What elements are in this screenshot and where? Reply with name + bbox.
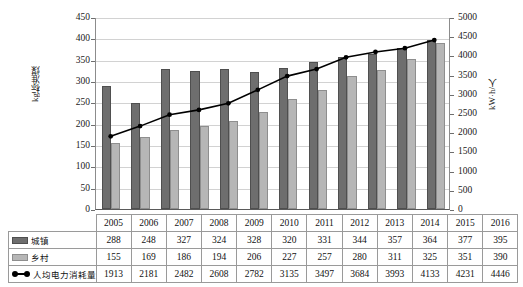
y-axis-primary-tick-label: 400: [56, 34, 90, 44]
legend-swatch-urban-icon: [12, 237, 28, 244]
legend-cell: 乡村: [9, 249, 97, 266]
chart-plot-region: kg标准煤 kW·h/人 050100150200250300350400450…: [0, 0, 523, 212]
table-row: 乡村155169186194206227257280311325351390: [9, 249, 518, 266]
y-axis-primary-tick-label: 450: [56, 13, 90, 23]
table-col-header-year: 2014: [412, 215, 447, 232]
table-col-header-year: 2007: [166, 215, 201, 232]
table-cell-value: 4446: [483, 266, 518, 283]
legend-cell: 城镇: [9, 232, 97, 249]
y-axis-primary-tick-label: 250: [56, 98, 90, 108]
table-cell-value: 2482: [166, 266, 201, 283]
y-axis-primary-tick-label: 350: [56, 56, 90, 66]
line-marker: 人均电力消耗量 2007: 2482: [167, 112, 172, 117]
data-table: 2005200620072008200920102011201220132014…: [8, 214, 518, 283]
line-marker: 人均电力消耗量 2013: 3993: [344, 55, 349, 60]
table-cell-value: 351: [448, 249, 483, 266]
legend-label: 城镇: [31, 236, 49, 246]
y-axis-secondary-tick-label: 1500: [458, 147, 498, 157]
table-cell-value: 288: [96, 232, 131, 249]
table-cell-value: 3684: [342, 266, 377, 283]
table-cell-value: 2782: [237, 266, 272, 283]
table-col-header-year: 2016: [483, 215, 518, 232]
table-col-header-year: 2011: [307, 215, 342, 232]
y-axis-primary-tick-label: 100: [56, 162, 90, 172]
table-cell-value: 364: [412, 232, 447, 249]
table-row: 人均电力消耗量191321812482260827823135349736843…: [9, 266, 518, 283]
y-axis-primary-tick-label: 300: [56, 77, 90, 87]
y-axis-primary-tick-label: 50: [56, 184, 90, 194]
plot-area: 人均电力消耗量 2005: 1913人均电力消耗量 2006: 2181人均电力…: [95, 18, 450, 210]
line-marker: 人均电力消耗量 2016: 4446: [432, 38, 437, 43]
table-col-header-year: 2008: [201, 215, 236, 232]
table-cell-value: 344: [342, 232, 377, 249]
table-cell-value: 390: [483, 249, 518, 266]
y-axis-secondary-tick-label: 1000: [458, 167, 498, 177]
legend-line-marker-icon: [12, 270, 30, 278]
y-axis-secondary-tick-label: 2000: [458, 128, 498, 138]
line-marker: 人均电力消耗量 2015: 4231: [402, 46, 407, 51]
y-axis-secondary-tick-mark: [450, 210, 454, 211]
table-col-header-year: 2010: [272, 215, 307, 232]
table-header-row: 2005200620072008200920102011201220132014…: [9, 215, 518, 232]
table-cell-value: 357: [377, 232, 412, 249]
data-table-wrap: 2005200620072008200920102011201220132014…: [8, 214, 505, 283]
table-cell-value: 257: [307, 249, 342, 266]
table-cell-value: 328: [237, 232, 272, 249]
table-cell-value: 206: [237, 249, 272, 266]
table-cell-value: 3993: [377, 266, 412, 283]
table-cell-value: 155: [96, 249, 131, 266]
table-cell-value: 311: [377, 249, 412, 266]
table-cell-value: 248: [131, 232, 166, 249]
table-corner-cell: [9, 215, 97, 232]
table-col-header-year: 2013: [377, 215, 412, 232]
line-marker: 人均电力消耗量 2014: 4133: [373, 50, 378, 55]
table-cell-value: 395: [483, 232, 518, 249]
y-axis-secondary-tick-label: 2500: [458, 109, 498, 119]
y-axis-secondary-tick-label: 500: [458, 186, 498, 196]
table-cell-value: 3497: [307, 266, 342, 283]
y-axis-primary-tick-label: 200: [56, 120, 90, 130]
table-cell-value: 280: [342, 249, 377, 266]
table-cell-value: 169: [131, 249, 166, 266]
line-path: [111, 40, 435, 136]
table-cell-value: 4133: [412, 266, 447, 283]
line-series-overlay: 人均电力消耗量 2005: 1913人均电力消耗量 2006: 2181人均电力…: [96, 19, 449, 209]
table-cell-value: 377: [448, 232, 483, 249]
table-cell-value: 227: [272, 249, 307, 266]
legend-cell: 人均电力消耗量: [9, 266, 97, 283]
line-marker: 人均电力消耗量 2009: 2782: [226, 101, 231, 106]
y-axis-secondary-tick-label: 3500: [458, 71, 498, 81]
table-cell-value: 324: [201, 232, 236, 249]
y-axis-secondary-tick-label: 3000: [458, 90, 498, 100]
table-cell-value: 4231: [448, 266, 483, 283]
chart-page: kg标准煤 kW·h/人 050100150200250300350400450…: [0, 0, 523, 287]
table-cell-value: 186: [166, 249, 201, 266]
y-axis-secondary-tick-label: 4500: [458, 32, 498, 42]
table-cell-value: 331: [307, 232, 342, 249]
table-cell-value: 320: [272, 232, 307, 249]
table-cell-value: 1913: [96, 266, 131, 283]
legend-label: 乡村: [31, 253, 49, 263]
table-cell-value: 2608: [201, 266, 236, 283]
y-axis-primary-tick-label: 150: [56, 141, 90, 151]
y-axis-primary-title: kg标准煤: [30, 66, 44, 102]
line-marker: 人均电力消耗量 2006: 2181: [138, 124, 143, 129]
table-col-header-year: 2005: [96, 215, 131, 232]
table-cell-value: 194: [201, 249, 236, 266]
legend-swatch-rural-icon: [12, 254, 28, 261]
line-marker: 人均电力消耗量 2010: 3135: [255, 87, 260, 92]
line-marker: 人均电力消耗量 2012: 3684: [314, 67, 319, 72]
table-col-header-year: 2015: [448, 215, 483, 232]
table-col-header-year: 2012: [342, 215, 377, 232]
table-cell-value: 325: [412, 249, 447, 266]
table-body: 城镇288248327324328320331344357364377395乡村…: [9, 232, 518, 283]
table-cell-value: 2181: [131, 266, 166, 283]
table-col-header-year: 2006: [131, 215, 166, 232]
line-marker: 人均电力消耗量 2011: 3497: [285, 74, 290, 79]
table-cell-value: 327: [166, 232, 201, 249]
table-row: 城镇288248327324328320331344357364377395: [9, 232, 518, 249]
table-col-header-year: 2009: [237, 215, 272, 232]
line-marker: 人均电力消耗量 2008: 2608: [197, 108, 202, 113]
table-cell-value: 3135: [272, 266, 307, 283]
legend-label: 人均电力消耗量: [33, 270, 96, 280]
